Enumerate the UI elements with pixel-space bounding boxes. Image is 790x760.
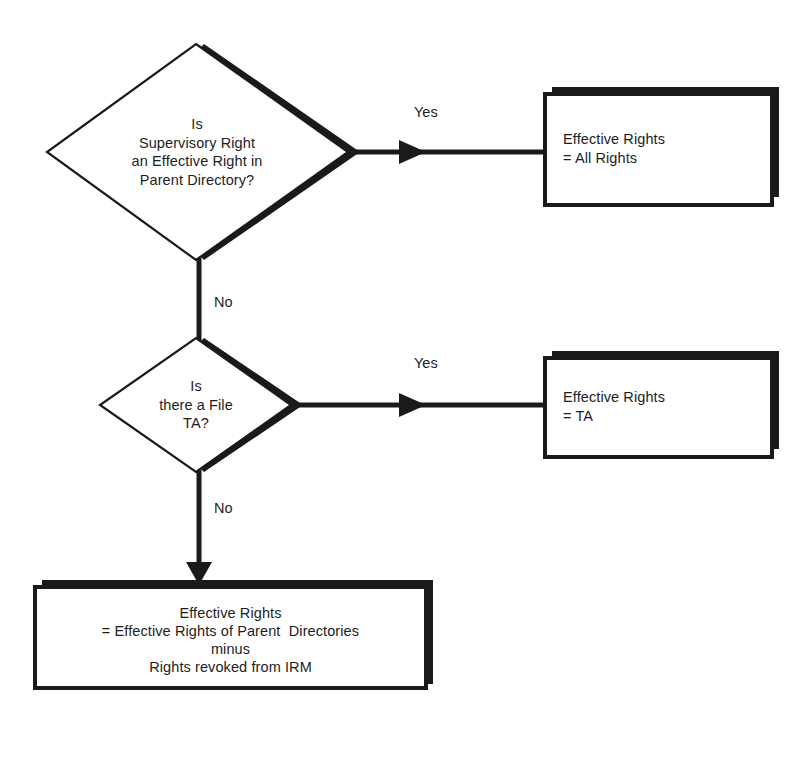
edge-ta-yes-line	[294, 393, 545, 417]
edge-sup-yes-line	[352, 140, 545, 164]
decision-file-ta-shape[interactable]	[100, 338, 291, 472]
result-inherited-shape[interactable]	[35, 587, 426, 688]
flowchart-canvas: Is Supervisory Right an Effective Right …	[0, 0, 790, 760]
edge-ta-no-line	[186, 470, 212, 585]
edge-sup-yes-label: Yes	[414, 104, 438, 121]
result-ta-shape[interactable]	[545, 358, 772, 457]
edge-ta-no-label: No	[214, 500, 233, 517]
edge-ta-yes-label: Yes	[414, 355, 438, 372]
decision-supervisory-shape[interactable]	[47, 44, 348, 260]
edge-sup-no-label: No	[214, 294, 233, 311]
result-all-rights-shape[interactable]	[545, 94, 772, 205]
flowchart-graphics	[0, 0, 790, 760]
